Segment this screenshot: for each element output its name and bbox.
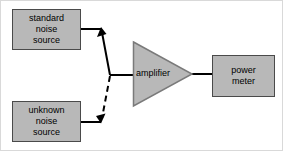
unknown-source-line-2: noise xyxy=(36,116,58,127)
standard-source-line-3: source xyxy=(33,35,60,46)
standard-source-line-1: standard xyxy=(29,13,64,24)
amplifier-label: amplifier xyxy=(136,68,170,79)
diagram-canvas: amplifier standard noise source unknown … xyxy=(0,0,284,152)
standard-source-line-2: noise xyxy=(36,24,58,35)
unknown-source-line-3: source xyxy=(33,127,60,138)
block-power-meter[interactable]: power meter xyxy=(212,55,275,97)
block-unknown-noise-source[interactable]: unknown noise source xyxy=(12,101,81,142)
power-meter-line-1: power xyxy=(231,65,256,76)
wire-switch-arm-dashed xyxy=(102,76,110,118)
wire-switch-arm-solid xyxy=(102,30,111,75)
power-meter-line-2: meter xyxy=(232,76,255,87)
unknown-source-line-1: unknown xyxy=(28,105,64,116)
block-standard-noise-source[interactable]: standard noise source xyxy=(12,9,81,50)
